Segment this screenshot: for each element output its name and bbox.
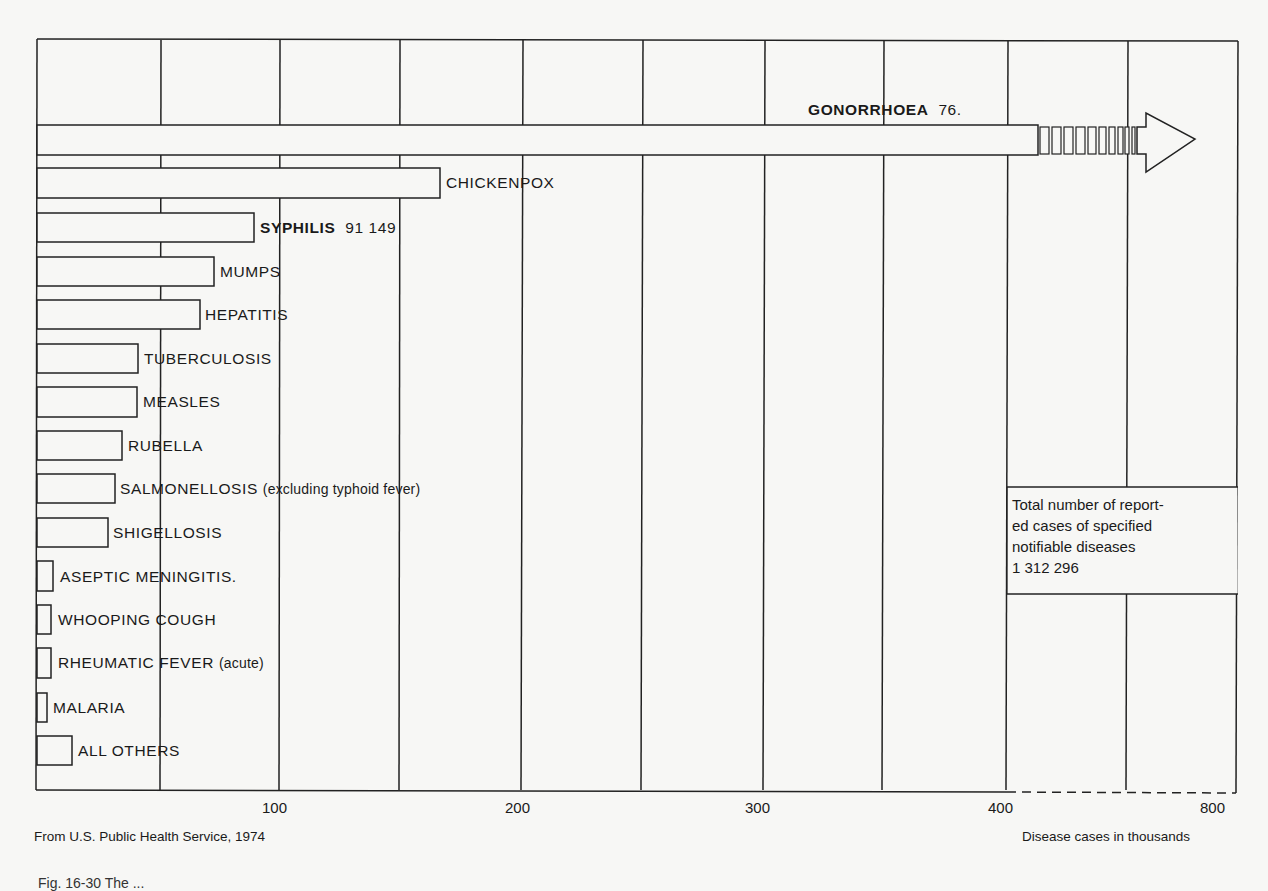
bar-rubella <box>37 431 122 460</box>
bar-malaria <box>37 693 47 722</box>
total-line-3: notifiable diseases <box>1012 536 1238 557</box>
label-gonorrhoea: GONORRHOEA 76. <box>808 102 962 118</box>
gonorrhoea-value: 76. <box>938 101 961 118</box>
x-tick-800: 800 <box>1200 800 1225 815</box>
total-line-2: ed cases of specified <box>1012 515 1238 536</box>
bar-aseptic-meningitis <box>37 561 53 591</box>
x-axis-broken <box>1007 792 1236 793</box>
frame-right <box>1236 41 1238 793</box>
label-mumps: MUMPS <box>220 264 281 280</box>
bar-gonorrhoea <box>37 125 1038 155</box>
bar-tuberculosis <box>37 344 138 373</box>
x-axis-label: Disease cases in thousands <box>1022 830 1190 844</box>
bar-salmonellosis <box>37 474 115 503</box>
label-chickenpox: CHICKENPOX <box>446 175 555 191</box>
bar-mumps <box>37 257 214 286</box>
x-tick-300: 300 <box>745 800 770 815</box>
label-malaria: MALARIA <box>53 700 125 716</box>
label-rubella: RUBELLA <box>128 438 203 454</box>
x-tick-400: 400 <box>988 800 1013 815</box>
label-salmonellosis: SALMONELLOSIS (excluding typhoid fever) <box>120 481 420 497</box>
label-all-others: ALL OTHERS <box>78 743 180 759</box>
source-note: From U.S. Public Health Service, 1974 <box>34 830 265 844</box>
frame-top <box>37 39 1238 41</box>
bar-shigellosis <box>37 518 108 547</box>
gonorrhoea-break-segments <box>1040 127 1135 154</box>
bar-measles <box>37 387 137 417</box>
syphilis-value: 91 149 <box>345 219 396 236</box>
label-tuberculosis: TUBERCULOSIS <box>144 351 272 367</box>
x-tick-100: 100 <box>262 800 287 815</box>
x-axis <box>36 790 1007 792</box>
bar-chickenpox <box>37 168 440 198</box>
label-aseptic-meningitis: ASEPTIC MENINGITIS. <box>60 569 237 585</box>
bar-rheumatic-fever <box>37 648 51 678</box>
total-cases-box: Total number of report- ed cases of spec… <box>1007 487 1238 594</box>
bar-hepatitis <box>37 300 200 329</box>
label-measles: MEASLES <box>143 394 220 410</box>
figure-caption-partial: Fig. 16-30 The ... <box>38 876 144 890</box>
label-rheumatic-fever: RHEUMATIC FEVER (acute) <box>58 655 264 671</box>
label-hepatitis: HEPATITIS <box>205 307 288 323</box>
label-shigellosis: SHIGELLOSIS <box>113 525 222 541</box>
bar-syphilis <box>37 213 254 242</box>
total-line-1: Total number of report- <box>1012 494 1238 515</box>
bar-all-others <box>37 736 72 765</box>
bar-whooping-cough <box>37 605 51 634</box>
total-value: 1 312 296 <box>1012 557 1238 578</box>
x-tick-200: 200 <box>505 800 530 815</box>
arrow-icon <box>1137 113 1195 172</box>
label-syphilis: SYPHILIS 91 149 <box>260 220 396 236</box>
label-whooping-cough: WHOOPING COUGH <box>58 612 216 628</box>
